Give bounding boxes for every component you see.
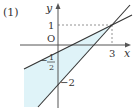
tick-label-neg-half-numerator: 1 <box>49 53 54 62</box>
tick-label-neg-half-denominator: 2 <box>49 63 54 72</box>
origin-label: O <box>47 33 55 44</box>
x-axis-label: x <box>124 47 131 60</box>
shaded-region <box>24 25 112 107</box>
problem-label: (1) <box>3 6 19 19</box>
tick-label-y-neg-2: −2 <box>60 77 75 88</box>
y-axis-arrow-icon <box>56 3 61 9</box>
tick-label-x-3: 3 <box>109 48 115 59</box>
graph: (1) y 1 O 3 x − 1 2 −2 <box>0 0 139 110</box>
tick-label-neg-half-sign: − <box>40 55 48 65</box>
y-axis-label: y <box>45 2 53 15</box>
tick-label-y-1: 1 <box>48 20 54 31</box>
